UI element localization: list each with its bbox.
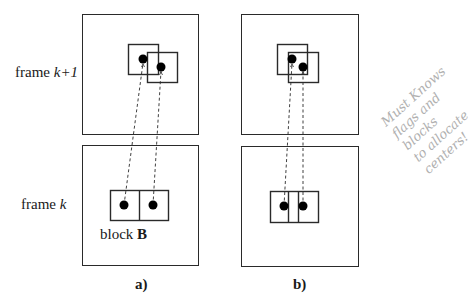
block-center-dot (157, 63, 166, 72)
block-center-dot (299, 202, 308, 211)
block-center-dot (149, 201, 158, 210)
block-center-dot (139, 55, 148, 64)
block-var: B (137, 226, 147, 242)
motion-vector-line (153, 71, 161, 205)
frame-k-plus-1-label: frame k+1 (15, 64, 78, 81)
frame-index-var: k (60, 196, 67, 212)
block-label-prefix: block (100, 226, 137, 242)
frame-a-k (83, 146, 199, 266)
block-center-dot (288, 55, 297, 64)
frame-index-var: k+1 (54, 64, 78, 80)
block-center-dot (299, 63, 308, 72)
arrowhead-icon (142, 64, 145, 67)
block-center-dot (280, 202, 289, 211)
motion-estimation-diagram (0, 0, 471, 306)
block-b-label: block B (100, 226, 147, 243)
frame-label-prefix: frame (21, 196, 60, 212)
block-b (271, 192, 319, 223)
frame-k-label: frame k (21, 196, 66, 213)
block-center-dot (120, 201, 129, 210)
panel-b-label: b) (293, 276, 306, 293)
panel-a-label: a) (135, 276, 148, 293)
frame-label-prefix: frame (15, 64, 54, 80)
arrowhead-icon (160, 72, 163, 75)
